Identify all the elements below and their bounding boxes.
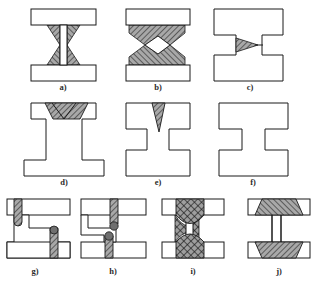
flange-g-bottom xyxy=(7,242,70,258)
panel-b-label: b) xyxy=(154,82,162,92)
panel-f-label: f) xyxy=(250,177,256,187)
weld-g-right-root xyxy=(50,226,58,234)
panel-i-label: i) xyxy=(190,266,195,276)
panel-a-label: a) xyxy=(59,82,66,92)
weld-h-bottom-root xyxy=(105,232,113,240)
weld-h-top-root xyxy=(110,222,118,230)
panel-g-label: g) xyxy=(31,266,38,276)
flange-a-top xyxy=(31,9,96,25)
weld-j-bottom xyxy=(255,242,303,258)
panel-d-label: d) xyxy=(60,177,68,187)
panel-c-label: c) xyxy=(247,82,254,92)
weld-i-bottom xyxy=(176,234,204,258)
flange-b-top xyxy=(126,9,190,25)
weld-i-top xyxy=(176,199,204,224)
web-j xyxy=(272,215,281,242)
panel-e-label: e) xyxy=(155,177,162,187)
web-a xyxy=(60,25,67,65)
weld-j-top xyxy=(255,199,303,215)
weld-g-left xyxy=(14,199,22,226)
flange-b-bottom xyxy=(126,65,190,81)
flange-a-bottom xyxy=(31,65,96,81)
weld-d-trapezoid xyxy=(45,103,88,119)
weld-joint-figure-sheet: a) b) c) d) e) f) xyxy=(0,0,320,291)
panel-j-label: j) xyxy=(275,266,282,276)
flange-h-bottom xyxy=(81,242,146,258)
weld-h-top xyxy=(110,199,118,224)
panel-h-label: h) xyxy=(109,266,117,276)
